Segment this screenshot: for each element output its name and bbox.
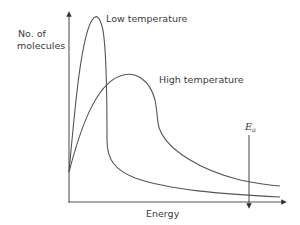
x-axis-label: Energy	[146, 208, 180, 219]
energy-distribution-diagram: No. of molecules Low temperature High te…	[0, 0, 300, 225]
high-temperature-label: High temperature	[159, 74, 244, 85]
activation-energy-subscript: a	[252, 126, 256, 134]
y-axis-label-line1: No. of	[18, 28, 47, 39]
y-axis-label-line2: molecules	[17, 40, 65, 51]
low-temperature-curve	[69, 17, 280, 197]
low-temperature-label: Low temperature	[106, 13, 188, 24]
